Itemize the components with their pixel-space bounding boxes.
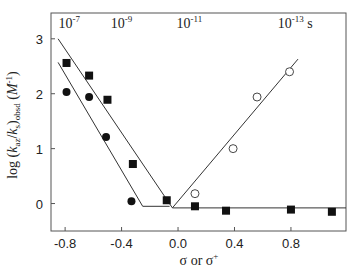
y-axis-title: log (kaz/ks)obsd (M-1) bbox=[4, 71, 22, 179]
plot-frame bbox=[51, 13, 346, 231]
filled-circle-marker bbox=[102, 133, 110, 141]
x-tick-label: 0.0 bbox=[169, 236, 187, 251]
square-marker bbox=[328, 208, 336, 216]
y-tick-label: 2 bbox=[36, 87, 43, 102]
open-circle-marker bbox=[286, 68, 294, 76]
filled-circle-marker bbox=[127, 197, 135, 205]
chart: -0.8-0.40.00.40.80123 10-710-910-1110-13… bbox=[0, 0, 358, 273]
timescale-label: 10-7 bbox=[59, 14, 81, 31]
y-tick-label: 1 bbox=[36, 142, 43, 157]
filled-circle-marker bbox=[85, 93, 93, 101]
fit-line bbox=[172, 59, 298, 208]
timescale-annotations: 10-710-910-1110-13 s bbox=[59, 14, 313, 31]
x-tick-label: 0.8 bbox=[282, 236, 300, 251]
y-tick-label: 0 bbox=[36, 197, 43, 212]
y-tick-label: 3 bbox=[36, 32, 43, 47]
data-points bbox=[63, 59, 336, 216]
square-marker bbox=[63, 59, 71, 67]
open-circle-marker bbox=[229, 145, 237, 153]
open-circle-marker bbox=[191, 190, 199, 198]
filled-circle-marker bbox=[63, 88, 71, 96]
square-marker bbox=[287, 206, 295, 214]
timescale-label: 10-9 bbox=[111, 14, 133, 31]
fit-lines bbox=[58, 39, 346, 208]
timescale-label: 10-13 s bbox=[278, 14, 313, 31]
square-marker bbox=[85, 72, 93, 80]
square-marker bbox=[222, 207, 230, 215]
square-marker bbox=[191, 202, 199, 210]
x-tick-label: 0.4 bbox=[225, 236, 243, 251]
plot-border bbox=[51, 13, 346, 231]
x-axis-title: σ or σ+ bbox=[180, 251, 219, 268]
x-tick-label: -0.8 bbox=[54, 236, 76, 251]
square-marker bbox=[163, 196, 171, 204]
square-marker bbox=[129, 160, 137, 168]
timescale-label: 10-11 bbox=[176, 14, 202, 31]
fit-line bbox=[58, 39, 346, 208]
open-circle-marker bbox=[253, 93, 261, 101]
fit-line bbox=[58, 62, 170, 206]
x-tick-label: -0.4 bbox=[110, 236, 132, 251]
square-marker bbox=[103, 96, 111, 104]
